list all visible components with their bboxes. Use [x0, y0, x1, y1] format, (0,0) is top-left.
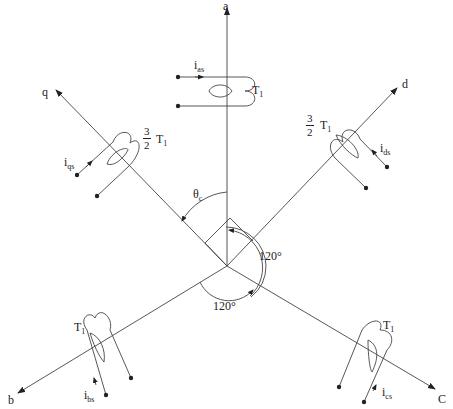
- axis-b: [18, 266, 227, 393]
- dq-transformation-diagram: a b C d q ias T1 iqs 32 T1 32 T1 ids T1 …: [0, 0, 453, 409]
- current-label-ids: ids: [380, 142, 390, 157]
- turns-label-c: T1: [383, 319, 394, 334]
- angle-label-theta: θc: [193, 188, 202, 203]
- angle-label-120-right: 120°: [259, 250, 282, 262]
- axis-c: [227, 266, 435, 389]
- axis-label-d: d: [402, 78, 408, 90]
- current-label-ics: ics: [382, 386, 392, 401]
- current-label-ibs: ibs: [84, 389, 94, 404]
- turns-label-a: T1: [252, 84, 263, 99]
- axis-label-a: a: [223, 0, 228, 12]
- terminal-dots: [75, 75, 389, 404]
- diagram-lines: [0, 0, 453, 409]
- angle-label-120-bottom: 120°: [213, 300, 236, 312]
- axis-label-q: q: [42, 86, 48, 98]
- turns-ratio-d: 32: [306, 113, 314, 138]
- axis-label-c: C: [438, 393, 446, 405]
- axis-label-b: b: [8, 394, 14, 406]
- turns-label-b: T1: [74, 321, 85, 336]
- turns-label-d: T1: [320, 119, 331, 134]
- turns-ratio-q: 32: [143, 126, 151, 151]
- turns-label-q: T1: [156, 133, 167, 148]
- current-label-iqs: iqs: [64, 156, 74, 171]
- axis-q: [56, 90, 227, 266]
- current-label-ias: ias: [194, 59, 204, 74]
